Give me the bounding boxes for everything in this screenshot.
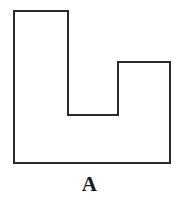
figure-label: A xyxy=(0,172,179,196)
notched-rectangle-shape xyxy=(0,0,179,201)
figure-container: A xyxy=(0,0,179,201)
polygon-outline xyxy=(14,11,170,163)
